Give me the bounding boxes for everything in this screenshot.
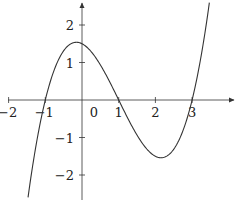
x-tick-label: 1 — [115, 105, 123, 120]
x-tick-label: −2 — [0, 105, 17, 120]
tick-labels: −2−1012321−1−2 — [0, 18, 196, 183]
x-tick-label: 2 — [151, 105, 159, 120]
x-tick-label: 0 — [90, 105, 98, 120]
x-tick-label: −1 — [35, 105, 54, 120]
cubic-function-plot: −2−1012321−1−2 — [0, 0, 236, 214]
y-tick-label: 1 — [66, 56, 74, 71]
y-tick-label: −1 — [55, 131, 74, 146]
axes — [8, 3, 234, 200]
y-tick-label: 2 — [66, 18, 74, 33]
y-tick-label: −2 — [55, 168, 74, 183]
